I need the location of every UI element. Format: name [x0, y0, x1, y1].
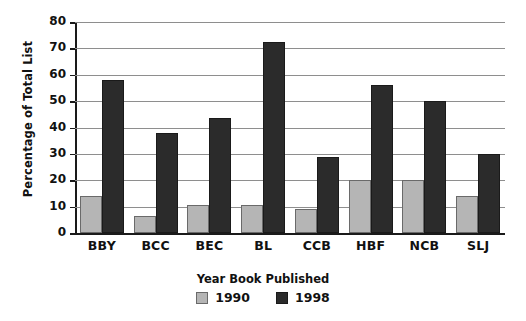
bar-CCB-1990: [295, 209, 317, 233]
legend-item-1998: 1998: [276, 290, 330, 305]
bar-NCB-1998: [424, 101, 446, 233]
x-axis-title: Year Book Published: [0, 272, 526, 286]
y-axis-tick-label: 50: [22, 93, 66, 107]
bar-group: [402, 22, 446, 233]
bar-group: [80, 22, 124, 233]
bar-NCB-1990: [402, 180, 424, 233]
bar-groups: [75, 22, 505, 233]
y-axis-tick-label: 20: [22, 172, 66, 186]
y-axis-tick-label: 80: [22, 14, 66, 28]
legend-swatch-1990: [196, 292, 208, 304]
bar-SLJ-1990: [456, 196, 478, 233]
x-axis-category-label: CCB: [290, 238, 344, 253]
legend: 19901998: [0, 290, 526, 305]
x-axis-category-label: SLJ: [451, 238, 505, 253]
bar-BCC-1990: [134, 216, 156, 233]
legend-label-1990: 1990: [215, 290, 250, 305]
gridline: [75, 233, 505, 235]
y-axis-tick-label: 30: [22, 146, 66, 160]
x-axis-category-label: BCC: [129, 238, 183, 253]
bar-BEC-1990: [187, 205, 209, 233]
bar-HBF-1998: [371, 85, 393, 233]
bar-group: [134, 22, 178, 233]
bar-HBF-1990: [349, 180, 371, 233]
x-axis-category-labels: BBYBCCBECBLCCBHBFNCBSLJ: [75, 238, 505, 258]
bar-chart: Percentage of Total List 807060504030201…: [0, 0, 526, 321]
legend-item-1990: 1990: [196, 290, 250, 305]
bar-BBY-1998: [102, 80, 124, 233]
legend-label-1998: 1998: [295, 290, 330, 305]
bar-BEC-1998: [209, 118, 231, 233]
x-axis-category-label: BBY: [75, 238, 129, 253]
bar-BL-1998: [263, 42, 285, 233]
x-axis-category-label: BEC: [183, 238, 237, 253]
y-axis-tick-label: 40: [22, 120, 66, 134]
bar-BCC-1998: [156, 133, 178, 233]
y-axis-tick-label: 70: [22, 40, 66, 54]
x-axis-category-label: BL: [236, 238, 290, 253]
bar-BBY-1990: [80, 196, 102, 233]
legend-swatch-1998: [276, 292, 288, 304]
bar-SLJ-1998: [478, 154, 500, 233]
x-axis-category-label: HBF: [344, 238, 398, 253]
plot-area: [75, 22, 505, 233]
bar-group: [241, 22, 285, 233]
y-axis-tick-label: 60: [22, 67, 66, 81]
y-axis-tick-label: 0: [22, 225, 66, 239]
bar-BL-1990: [241, 205, 263, 233]
bar-CCB-1998: [317, 157, 339, 233]
x-axis-category-label: NCB: [398, 238, 452, 253]
bar-group: [187, 22, 231, 233]
bar-group: [295, 22, 339, 233]
y-axis-tick-label: 10: [22, 199, 66, 213]
bar-group: [349, 22, 393, 233]
bar-group: [456, 22, 500, 233]
